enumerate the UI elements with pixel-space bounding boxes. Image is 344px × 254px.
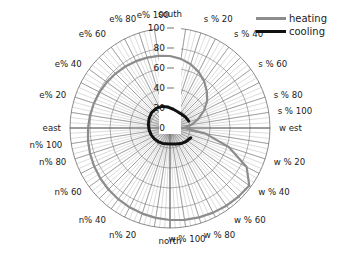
- radial-tick-label: 0: [159, 123, 165, 133]
- angular-axis-label: n% 80: [39, 157, 66, 167]
- angular-axis-label: w % 20: [274, 157, 306, 167]
- angular-axis-label: s % 60: [258, 59, 287, 69]
- legend-swatch-heating: [256, 17, 286, 20]
- angular-axis-label: e% 20: [39, 90, 66, 100]
- angular-axis-label: s % 100: [278, 106, 313, 116]
- radial-axis-backing: [159, 22, 181, 134]
- angular-axis-label: s % 20: [204, 14, 233, 24]
- legend-item-heating: heating: [256, 12, 340, 25]
- angular-axis-label: n% 20: [109, 230, 136, 240]
- grid-spoke-minor: [170, 128, 269, 138]
- polar-chart-root: 020406080100souths % 20s % 40s % 60s % 8…: [0, 0, 344, 254]
- angular-axis-label: east: [43, 123, 62, 133]
- radial-tick-label: 80: [154, 43, 166, 53]
- grid-spoke-major: [170, 97, 265, 128]
- angular-axis-label: w % 60: [234, 215, 266, 225]
- angular-axis-label: e% 60: [79, 29, 106, 39]
- angular-axis-label: e% 40: [55, 59, 82, 69]
- angular-axis-label: s % 80: [274, 90, 303, 100]
- grid-spoke-minor: [71, 128, 170, 138]
- angular-axis-label: north: [158, 236, 181, 246]
- legend-label-cooling: cooling: [289, 25, 325, 38]
- angular-axis-label: w est: [279, 123, 303, 133]
- angular-axis-label: e% 100: [137, 10, 170, 20]
- radial-tick-label: 60: [154, 63, 166, 73]
- legend-item-cooling: cooling: [256, 25, 340, 38]
- grid-spoke-major: [99, 128, 170, 199]
- radial-tick-label: 40: [154, 83, 166, 93]
- angular-axis-label: n% 100: [30, 140, 63, 150]
- legend-label-heating: heating: [289, 12, 327, 25]
- chart-legend: heating cooling: [256, 12, 340, 38]
- chart-title: [0, 0, 344, 4]
- polar-plot-svg: 020406080100souths % 20s % 40s % 60s % 8…: [0, 0, 344, 254]
- legend-swatch-cooling: [256, 30, 286, 33]
- grid-spoke-minor: [71, 118, 170, 128]
- angular-axis-label: e% 80: [109, 14, 136, 24]
- angular-axis-label: n% 40: [79, 215, 106, 225]
- angular-axis-label: w % 40: [258, 187, 290, 197]
- angular-axis-label: n% 60: [55, 187, 82, 197]
- angular-axis-label: w % 80: [204, 230, 236, 240]
- grid-spoke-major: [170, 128, 241, 199]
- radial-tick-label: 100: [148, 23, 165, 33]
